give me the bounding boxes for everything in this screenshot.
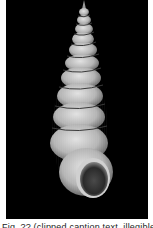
shell-photo <box>6 0 148 219</box>
shell-illustration <box>6 0 148 219</box>
figure-caption: Fig. ?? (clipped caption text, illegible… <box>2 222 153 228</box>
shell-aperture <box>80 162 108 196</box>
